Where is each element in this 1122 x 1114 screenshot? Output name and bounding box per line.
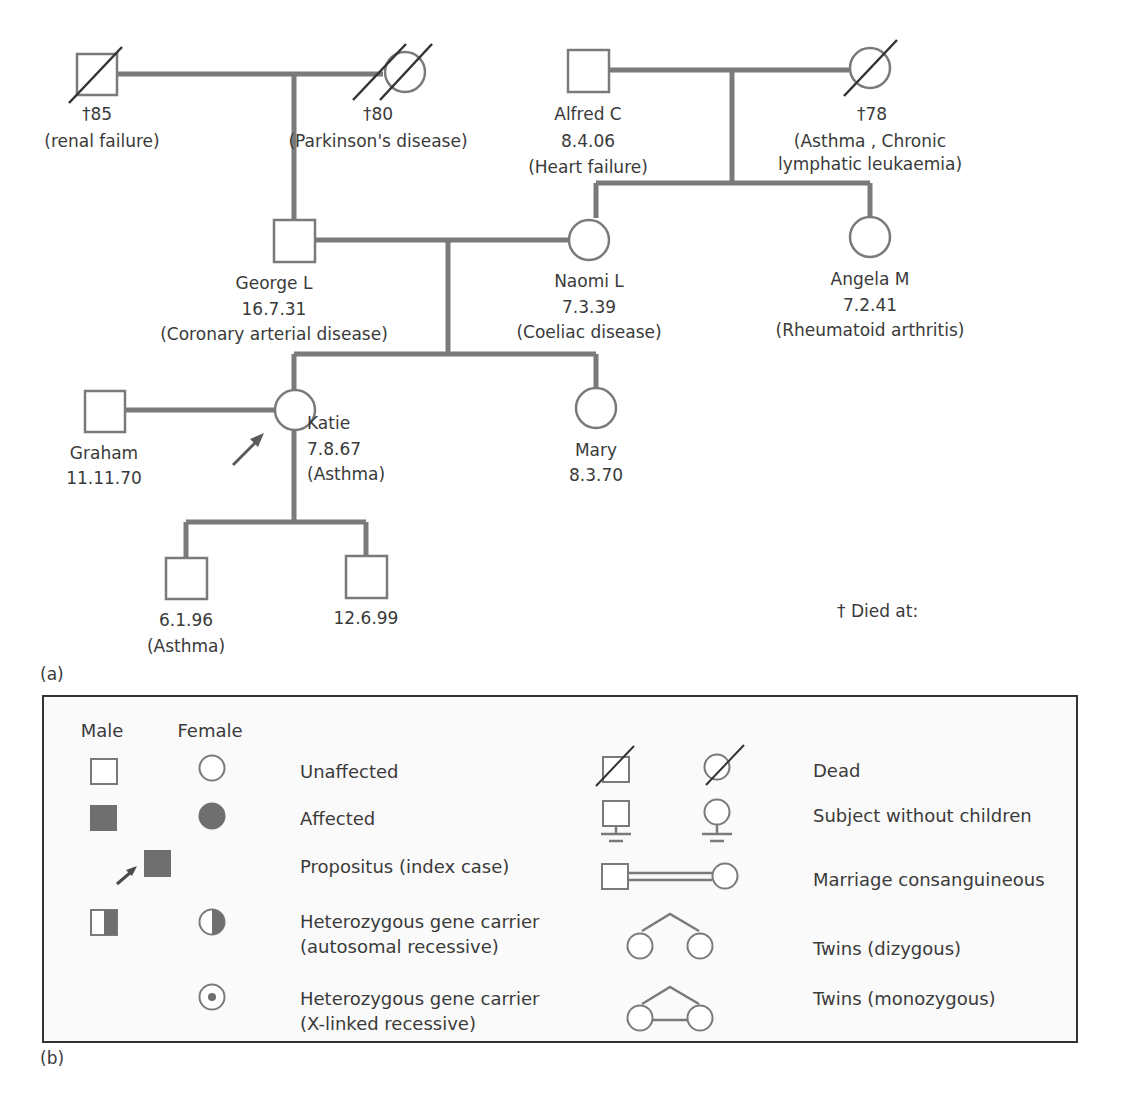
panel-label-b: (b): [40, 1048, 64, 1068]
legend-label: Unaffected: [300, 761, 399, 782]
female-dead-icon: [705, 755, 730, 780]
individual-paternal-grandfather: †85 (renal failure): [44, 47, 159, 151]
male-symbol: [166, 558, 207, 599]
birth-date: 12.6.99: [334, 608, 399, 628]
legend-label: Heterozygous gene carrier: [300, 911, 540, 932]
legend-label: Propositus (index case): [300, 856, 509, 877]
legend-panel: Male Female Unaffected Affected Proposit…: [40, 696, 1077, 1068]
legend-label: Dead: [813, 760, 860, 781]
female-affected-icon: [199, 803, 226, 830]
cause-of-death: (Asthma , Chronic: [794, 131, 946, 151]
individual-paternal-grandmother: †80 (Parkinson's disease): [288, 44, 467, 151]
condition: (Asthma): [147, 636, 225, 656]
legend-label: Heterozygous gene carrier: [300, 988, 540, 1009]
birth-date: 8.4.06: [561, 131, 615, 151]
legend-label-cont: (X-linked recessive): [300, 1013, 476, 1034]
person-name: Alfred C: [554, 104, 621, 124]
individual-mary: Mary 8.3.70: [569, 388, 623, 485]
condition: (Heart failure): [528, 157, 648, 177]
individual-graham: Graham 11.11.70: [66, 391, 142, 488]
person-name: George L: [236, 273, 313, 293]
propositus-arrow-icon: [233, 433, 264, 465]
legend-label: Twins (dizygous): [812, 938, 961, 959]
female-symbol: [576, 388, 616, 428]
age-at-death: †85: [82, 104, 112, 124]
legend-label: Affected: [300, 808, 375, 829]
cause-of-death: (renal failure): [44, 131, 159, 151]
person-name: Angela M: [831, 269, 910, 289]
birth-date: 8.3.70: [569, 465, 623, 485]
pedigree-figure: †85 (renal failure) †80 (Parkinson's dis…: [0, 0, 1122, 1114]
person-name: Naomi L: [554, 271, 624, 291]
consanguineous-male-icon: [602, 864, 628, 889]
person-name: Katie: [307, 413, 350, 433]
person-name: Mary: [575, 440, 617, 460]
male-unaffected-icon: [91, 759, 117, 784]
birth-date: 7.8.67: [307, 439, 361, 459]
condition: (Coeliac disease): [516, 322, 661, 342]
female-unaffected-icon: [200, 756, 225, 781]
condition: (Rheumatoid arthritis): [776, 320, 965, 340]
person-name: Graham: [70, 443, 138, 463]
female-symbol: [569, 220, 609, 260]
panel-label-a: (a): [40, 664, 64, 684]
legend-label: Subject without children: [813, 805, 1032, 826]
individual-maternal-grandmother: †78 (Asthma , Chronic lymphatic leukaemi…: [778, 40, 962, 174]
condition: (Asthma): [307, 464, 385, 484]
connector-lines: [117, 70, 870, 557]
legend-label: Twins (monozygous): [812, 988, 996, 1009]
legend-header-male: Male: [81, 720, 124, 741]
propositus-square-icon: [144, 850, 171, 877]
birth-date: 7.3.39: [562, 297, 616, 317]
male-symbol: [274, 220, 315, 262]
male-no-children-icon: [603, 801, 629, 826]
birth-date: 6.1.96: [159, 610, 213, 630]
individual-son-1: 6.1.96 (Asthma): [147, 558, 225, 656]
male-symbol: [568, 50, 609, 92]
cause-of-death: (Parkinson's disease): [288, 131, 467, 151]
female-symbol: [850, 217, 890, 257]
male-affected-icon: [90, 805, 117, 831]
legend-header-female: Female: [177, 720, 242, 741]
birth-date: 16.7.31: [242, 299, 307, 319]
individual-son-2: 12.6.99: [334, 556, 399, 628]
legend-label-cont: (autosomal recessive): [300, 936, 499, 957]
condition: (Coronary arterial disease): [160, 324, 388, 344]
birth-date: 11.11.70: [66, 468, 142, 488]
male-dead-icon: [603, 757, 629, 782]
legend-label: Marriage consanguineous: [813, 869, 1045, 890]
female-no-children-icon: [705, 800, 730, 825]
individual-angela-m: Angela M 7.2.41 (Rheumatoid arthritis): [776, 217, 965, 340]
consanguineous-female-icon: [713, 864, 738, 889]
birth-date: 7.2.41: [843, 295, 897, 315]
death-footnote: † Died at:: [837, 601, 918, 621]
cause-of-death-cont: lymphatic leukaemia): [778, 154, 962, 174]
individual-katie: Katie 7.8.67 (Asthma): [233, 390, 385, 484]
pedigree-chart: †85 (renal failure) †80 (Parkinson's dis…: [40, 40, 964, 684]
male-symbol: [346, 556, 387, 598]
male-symbol: [85, 391, 125, 432]
age-at-death: †78: [857, 104, 887, 124]
age-at-death: †80: [363, 104, 393, 124]
